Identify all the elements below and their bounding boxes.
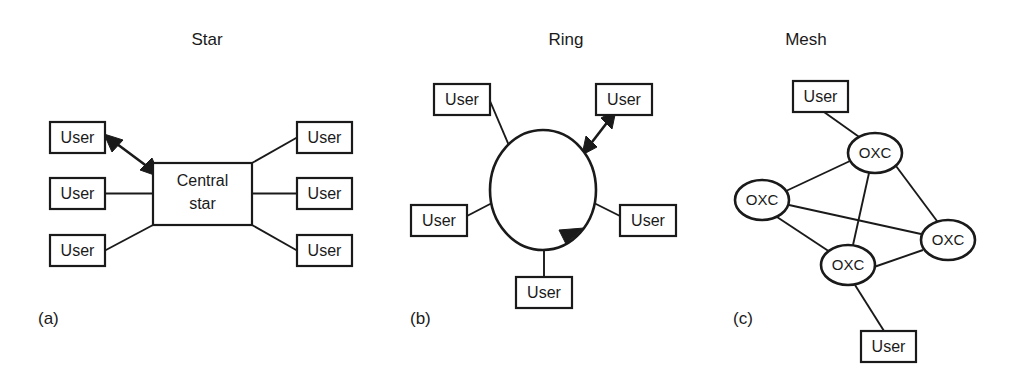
ring-user-top-left[interactable]: User	[434, 84, 490, 115]
user-box-label: User	[61, 242, 95, 259]
link-user-right-bottom-to-hub	[252, 225, 297, 251]
oxc-label: OXC	[832, 256, 865, 273]
mesh-oxc-right[interactable]: OXC	[921, 220, 975, 260]
arrowhead-toward-user-left-top	[104, 134, 123, 152]
link-oxc-top-to-oxc-left	[786, 161, 850, 191]
panel-star: Star Central	[38, 30, 352, 328]
user-box-label: User	[804, 88, 838, 105]
ring-user-left[interactable]: User	[411, 205, 467, 236]
panel-mesh: Mesh OXC	[733, 30, 975, 362]
star-user-right-middle[interactable]: User	[297, 178, 352, 209]
ring-user-top-right[interactable]: User	[596, 84, 652, 115]
mesh-oxc-top[interactable]: OXC	[848, 133, 902, 173]
central-star-label-line1: Central	[177, 172, 229, 189]
oxc-label: OXC	[746, 191, 779, 208]
user-box-label: User	[61, 185, 95, 202]
link-oxc-top-to-oxc-right	[896, 166, 937, 221]
panel-label-c: (c)	[733, 309, 753, 328]
user-box-label: User	[527, 284, 561, 301]
panel-label-a: (a)	[38, 309, 59, 328]
mesh-oxc-bottom[interactable]: OXC	[821, 245, 875, 285]
link-user-left-bottom-to-hub	[105, 225, 153, 251]
mesh-user-top[interactable]: User	[793, 81, 848, 112]
link-user-left-to-ring	[467, 203, 492, 216]
ring-user-bottom[interactable]: User	[516, 277, 572, 308]
ring-user-right[interactable]: User	[620, 205, 676, 236]
star-user-left-middle[interactable]: User	[50, 178, 105, 209]
panel-star-title: Star	[191, 30, 223, 49]
link-user-right-top-to-hub	[252, 138, 297, 164]
link-oxc-bottom-to-oxc-right	[874, 250, 923, 267]
star-user-right-bottom[interactable]: User	[297, 235, 352, 266]
topology-diagram-canvas: Star Central	[0, 0, 1023, 374]
user-box-label: User	[872, 338, 906, 355]
link-user-top-to-oxc-top	[824, 112, 862, 139]
panel-ring: Ring User	[410, 30, 676, 328]
panel-label-b: (b)	[410, 309, 431, 328]
link-oxc-left-to-oxc-bottom	[777, 217, 830, 252]
central-star-label-line2: star	[189, 195, 216, 212]
star-user-left-bottom[interactable]: User	[50, 235, 105, 266]
star-user-right-top[interactable]: User	[297, 122, 352, 153]
user-box-label: User	[308, 242, 342, 259]
user-box-label: User	[607, 91, 641, 108]
oxc-label: OXC	[859, 144, 892, 161]
user-box-label: User	[445, 91, 479, 108]
mesh-user-bottom[interactable]: User	[861, 331, 916, 362]
star-user-left-top[interactable]: User	[50, 122, 105, 153]
user-box-label: User	[308, 185, 342, 202]
link-user-right-to-ring	[594, 203, 620, 216]
mesh-oxc-left[interactable]: OXC	[735, 180, 789, 220]
user-box-label: User	[422, 212, 456, 229]
link-oxc-left-to-oxc-right	[789, 205, 921, 234]
panel-mesh-title: Mesh	[785, 30, 827, 49]
user-box-label: User	[61, 129, 95, 146]
link-user-top-left-to-ring	[490, 101, 510, 148]
link-oxc-top-to-oxc-bottom	[853, 173, 869, 245]
link-oxc-bottom-to-user-bottom	[855, 285, 884, 331]
oxc-label: OXC	[932, 231, 965, 248]
user-box-label: User	[631, 212, 665, 229]
panel-ring-title: Ring	[549, 30, 584, 49]
central-star-node[interactable]: Central star	[153, 163, 252, 225]
user-box-label: User	[308, 129, 342, 146]
network-topology-figure: Star Central	[0, 0, 1023, 374]
